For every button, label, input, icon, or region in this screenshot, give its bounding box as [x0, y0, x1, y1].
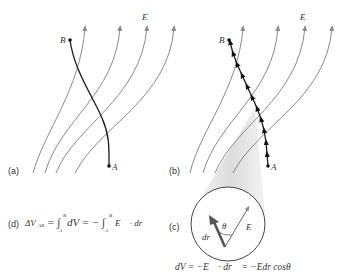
point-a-a: A	[112, 162, 118, 172]
equation-c: dV = −E⃗ · dr⃗ = −Edr cosθ	[175, 262, 291, 272]
panel-label-d: (d)	[8, 219, 19, 229]
field-label-b: E⃗	[300, 12, 313, 22]
point-b-b: B	[219, 35, 225, 45]
point-b-a: B	[60, 35, 66, 45]
panel-label-b: (b)	[169, 166, 180, 176]
theta-label: θ	[222, 221, 226, 231]
e-vector-label: E⃗	[246, 222, 259, 232]
field-lines-a	[33, 28, 174, 173]
diagram-canvas	[0, 0, 343, 280]
field-lines-b	[190, 28, 332, 173]
point-a-b: A	[271, 162, 277, 172]
field-label-a: E⃗	[142, 12, 155, 22]
dr-label: dr⃗	[202, 232, 217, 242]
path-a	[70, 40, 109, 166]
panel-label-a: (a)	[8, 166, 19, 176]
panel-label-c: (c)	[169, 222, 180, 232]
